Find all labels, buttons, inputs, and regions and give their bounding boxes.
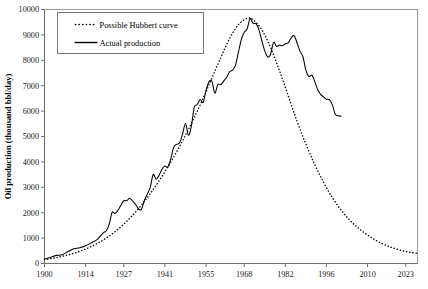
y-tick-label: 8000 bbox=[23, 56, 39, 65]
x-tick-label: 1914 bbox=[77, 270, 93, 279]
x-tick-label: 1955 bbox=[198, 270, 214, 279]
y-tick-label: 0 bbox=[35, 259, 39, 268]
y-tick-label: 5000 bbox=[23, 132, 39, 141]
y-tick-label: 6000 bbox=[23, 107, 39, 116]
y-tick-label: 4000 bbox=[23, 158, 39, 167]
x-tick-label: 1996 bbox=[318, 270, 334, 279]
x-tick-label: 1900 bbox=[36, 270, 52, 279]
x-tick-label: 1982 bbox=[277, 270, 293, 279]
legend-item-label: Actual production bbox=[100, 39, 162, 48]
x-tick-label: 2023 bbox=[398, 270, 414, 279]
y-tick-label: 9000 bbox=[23, 31, 39, 40]
oil-production-chart: 0100020003000400050006000700080009000100… bbox=[0, 0, 428, 289]
x-tick-label: 1941 bbox=[157, 270, 173, 279]
series-actual-production bbox=[45, 19, 342, 260]
data-series-group bbox=[45, 18, 418, 260]
y-axis-title-text: Oil production (thousand bbl/day) bbox=[3, 74, 13, 200]
x-tick-label: 1968 bbox=[236, 270, 252, 279]
series-hubbert-curve bbox=[45, 18, 418, 260]
legend-item-label: Possible Hubbert curve bbox=[100, 21, 178, 30]
x-tick-label: 1927 bbox=[116, 270, 132, 279]
y-tick-label: 1000 bbox=[23, 234, 39, 243]
x-axis-tick-labels: 1900191419271941195519681982199620102023 bbox=[36, 270, 414, 279]
y-tick-label: 7000 bbox=[23, 82, 39, 91]
x-tick-label: 2010 bbox=[359, 270, 375, 279]
chart-legend: Possible Hubbert curveActual production bbox=[58, 13, 204, 54]
y-axis-title: Oil production (thousand bbl/day) bbox=[3, 74, 13, 200]
y-tick-label: 2000 bbox=[23, 209, 39, 218]
y-tick-label: 10000 bbox=[19, 5, 39, 14]
y-tick-label: 3000 bbox=[23, 183, 39, 192]
figure-container: 0100020003000400050006000700080009000100… bbox=[0, 0, 428, 289]
y-axis-tick-labels: 0100020003000400050006000700080009000100… bbox=[19, 5, 39, 268]
